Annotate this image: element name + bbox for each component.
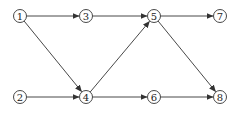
node-3: 3 [80, 10, 93, 23]
node-6: 6 [148, 91, 161, 104]
node-2: 2 [14, 91, 27, 104]
node-7: 7 [214, 10, 227, 23]
node-8: 8 [214, 91, 227, 104]
node-label: 8 [217, 92, 223, 103]
node-1: 1 [14, 10, 27, 23]
node-label: 5 [151, 11, 157, 22]
node-5: 5 [148, 10, 161, 23]
network-diagram: 13572468 [0, 0, 239, 113]
node-label: 7 [217, 11, 223, 22]
node-label: 3 [83, 11, 89, 22]
edge-5-to-8 [158, 21, 215, 92]
node-label: 4 [83, 92, 89, 103]
edge-1-to-4 [24, 21, 81, 92]
edge-4-to-5 [90, 21, 149, 92]
edges-layer [24, 16, 215, 97]
node-label: 2 [17, 92, 23, 103]
node-label: 1 [17, 11, 23, 22]
node-4: 4 [80, 91, 93, 104]
network-diagram-svg: 13572468 [0, 0, 239, 113]
node-label: 6 [151, 92, 157, 103]
